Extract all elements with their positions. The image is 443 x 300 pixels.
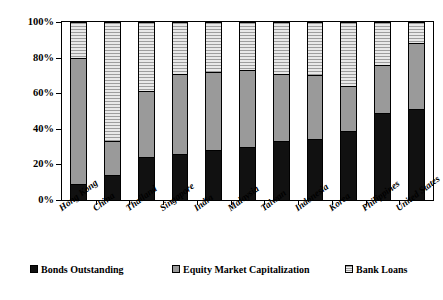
- bar-group: [408, 22, 425, 200]
- legend-item-equity[interactable]: Equity Market Capitalization: [172, 262, 310, 276]
- stacked-bar: [408, 22, 425, 200]
- legend-label: Bonds Outstanding: [41, 264, 124, 275]
- bar-segment-bank-loans: [206, 22, 221, 72]
- stacked-bar: [239, 22, 256, 200]
- y-axis-label-80: 80%: [4, 53, 54, 63]
- bar-segment-equity: [240, 70, 255, 147]
- bar-group: [70, 22, 87, 200]
- stacked-bar: [307, 22, 324, 200]
- bar-group: [138, 22, 155, 200]
- legend-label: Bank Loans: [356, 264, 407, 275]
- plot-area: [62, 22, 433, 200]
- bar-segment-equity: [341, 86, 356, 131]
- bar-segment-bank-loans: [71, 22, 86, 58]
- bar-segment-equity: [173, 74, 188, 154]
- bar-group: [273, 22, 290, 200]
- stacked-bar: [374, 22, 391, 200]
- bar-group: [340, 22, 357, 200]
- legend-swatch-icon: [172, 265, 180, 273]
- legend-label: Equity Market Capitalization: [183, 264, 310, 275]
- legend-swatch-icon: [345, 265, 353, 273]
- bar-segment-bank-loans: [308, 22, 323, 75]
- bar-segment-bank-loans: [375, 22, 390, 65]
- bar-segment-bank-loans: [173, 22, 188, 74]
- bar-segment-bonds: [341, 131, 356, 200]
- bar-group: [104, 22, 121, 200]
- legend-item-bonds[interactable]: Bonds Outstanding: [30, 262, 124, 276]
- stacked-bar: [205, 22, 222, 200]
- bar-segment-equity: [308, 75, 323, 139]
- bar-segment-equity: [409, 43, 424, 109]
- legend-swatch-icon: [30, 265, 38, 273]
- bar-segment-equity: [206, 72, 221, 150]
- stacked-bar: [273, 22, 290, 200]
- stacked-bar: [104, 22, 121, 200]
- bar-segment-equity: [71, 58, 86, 184]
- bar-segment-equity: [375, 65, 390, 113]
- stacked-bar: [172, 22, 189, 200]
- bar-segment-bank-loans: [139, 22, 154, 91]
- bar-group: [374, 22, 391, 200]
- legend-item-bank-loans[interactable]: Bank Loans: [345, 262, 407, 276]
- bar-group: [205, 22, 222, 200]
- chart-legend: Bonds OutstandingEquity Market Capitaliz…: [0, 262, 443, 280]
- y-axis-label-60: 60%: [4, 88, 54, 98]
- y-axis-label-20: 20%: [4, 159, 54, 169]
- bar-segment-equity: [139, 91, 154, 157]
- stacked-bar: [138, 22, 155, 200]
- y-axis-label-40: 40%: [4, 124, 54, 134]
- bar-segment-bank-loans: [274, 22, 289, 74]
- bar-segment-equity: [274, 74, 289, 142]
- x-axis-labels: Hong KongChinaThailandSingaporeIndiaMala…: [0, 203, 443, 258]
- bar-segment-bank-loans: [240, 22, 255, 70]
- bar-group: [172, 22, 189, 200]
- chart-container: 100% 80% 60% 40% 20% 0% Hong KongChinaTh…: [0, 0, 443, 300]
- y-axis-label-100: 100%: [4, 17, 54, 27]
- stacked-bar: [70, 22, 87, 200]
- bar-group: [307, 22, 324, 200]
- bar-group: [239, 22, 256, 200]
- bar-segment-bank-loans: [105, 22, 120, 141]
- stacked-bar: [340, 22, 357, 200]
- bar-segment-bank-loans: [341, 22, 356, 86]
- bar-segment-bank-loans: [409, 22, 424, 43]
- bar-segment-equity: [105, 141, 120, 175]
